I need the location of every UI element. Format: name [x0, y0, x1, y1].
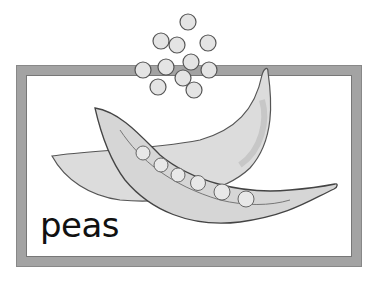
- loose-peas: [135, 14, 217, 98]
- card-label: peas: [40, 205, 119, 245]
- flashcard: peas: [0, 0, 375, 284]
